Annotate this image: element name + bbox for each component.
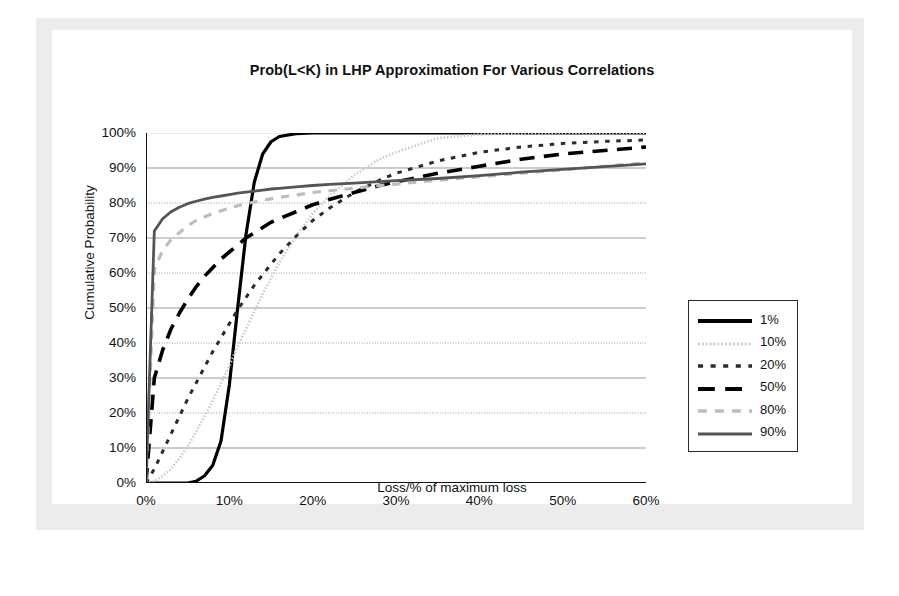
legend-swatch-icon — [697, 403, 753, 415]
page-canvas: Prob(L<K) in LHP Approximation For Vario… — [0, 0, 899, 596]
x-tick-label: 0% — [118, 494, 174, 508]
legend-item-20pct[interactable]: 20% — [697, 353, 791, 376]
y-tick-label: 70% — [80, 231, 136, 245]
legend-label: 10% — [760, 334, 786, 349]
legend-label: 80% — [760, 402, 786, 417]
x-tick-label: 50% — [535, 494, 591, 508]
y-tick-label: 50% — [80, 301, 136, 315]
legend-item-80pct[interactable]: 80% — [697, 398, 791, 421]
y-tick-label: 0% — [80, 476, 136, 490]
legend-item-1pct[interactable]: 1% — [697, 308, 791, 331]
legend-swatch-icon — [697, 381, 753, 393]
legend-swatch-icon — [697, 313, 753, 325]
plot-area — [146, 133, 646, 483]
legend-label: 20% — [760, 357, 786, 372]
y-tick-label: 100% — [80, 126, 136, 140]
x-tick-label: 30% — [368, 494, 424, 508]
legend-item-50pct[interactable]: 50% — [697, 376, 791, 399]
chart-plot-svg — [146, 133, 646, 483]
x-tick-label: 40% — [451, 494, 507, 508]
y-tick-label: 60% — [80, 266, 136, 280]
legend-item-90pct[interactable]: 90% — [697, 421, 791, 444]
legend-swatch-icon — [697, 358, 753, 370]
legend-item-10pct[interactable]: 10% — [697, 331, 791, 354]
y-axis-label: Cumulative Probability — [82, 158, 97, 348]
chart-figure: Prob(L<K) in LHP Approximation For Vario… — [52, 30, 852, 504]
chart-title: Prob(L<K) in LHP Approximation For Vario… — [52, 62, 852, 78]
y-tick-label: 80% — [80, 196, 136, 210]
y-tick-label: 30% — [80, 371, 136, 385]
legend-label: 50% — [760, 379, 786, 394]
legend-label: 1% — [760, 312, 779, 327]
legend-swatch-icon — [697, 426, 753, 438]
y-tick-label: 40% — [80, 336, 136, 350]
x-tick-label: 20% — [285, 494, 341, 508]
y-tick-label: 90% — [80, 161, 136, 175]
y-tick-label: 10% — [80, 441, 136, 455]
legend-swatch-icon — [697, 336, 753, 348]
x-tick-label: 10% — [201, 494, 257, 508]
chart-legend: 1%10%20%50%80%90% — [688, 300, 798, 452]
y-tick-label: 20% — [80, 406, 136, 420]
x-tick-label: 60% — [618, 494, 674, 508]
legend-label: 90% — [760, 424, 786, 439]
